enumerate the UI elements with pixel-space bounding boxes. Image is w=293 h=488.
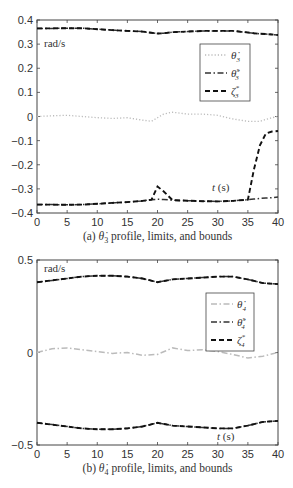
legend: θ̇3θ̇s3ζ*3: [200, 44, 250, 101]
y-tick-label: −0.1: [11, 135, 33, 147]
x-tick-label: 35: [242, 216, 254, 228]
figure-caption: (b) θ̇4 profile, limits, and bounds: [83, 462, 233, 477]
y-tick-label: 0.2: [18, 62, 33, 74]
y-tick-label: 0.5: [18, 254, 33, 266]
plot-frame: [37, 260, 278, 445]
x-tick-label: 0: [34, 448, 40, 460]
series-line: [37, 276, 278, 284]
x-tick-label: 20: [151, 216, 163, 228]
x-tick-label: 20: [151, 448, 163, 460]
y-tick-label: 0.3: [18, 38, 33, 50]
y-tick-label: −0.2: [11, 159, 33, 171]
series-line: [37, 112, 278, 121]
y-tick-label: −0.3: [11, 183, 33, 195]
y-axis-unit-label: rad/s: [44, 262, 65, 274]
x-tick-label: 40: [272, 216, 284, 228]
y-tick-label: 0: [27, 111, 33, 123]
x-tick-label: 0: [34, 216, 40, 228]
x-axis-label: t (s): [217, 430, 235, 443]
x-tick-label: 15: [121, 448, 133, 460]
x-tick-label: 35: [242, 448, 254, 460]
chart-panel-b: 05101520253035400.50−0.5rad/st (s)θ̇4θ̇s…: [11, 254, 284, 477]
legend: θ̇4θ̇s4ζ*4: [206, 293, 254, 351]
x-tick-label: 25: [182, 448, 194, 460]
x-tick-label: 25: [182, 216, 194, 228]
y-tick-label: −0.4: [11, 207, 33, 219]
y-tick-label: 0: [27, 347, 33, 359]
x-tick-label: 40: [272, 448, 284, 460]
x-tick-label: 10: [91, 448, 103, 460]
y-axis-unit-label: rad/s: [44, 37, 65, 49]
x-tick-label: 5: [64, 216, 70, 228]
x-axis-label: t (s): [212, 181, 230, 194]
figure-caption: (a) θ̇3 profile, limits, and bounds: [83, 230, 233, 245]
y-tick-label: 0.4: [18, 14, 33, 26]
x-tick-label: 15: [121, 216, 133, 228]
x-tick-label: 10: [91, 216, 103, 228]
chart-panel-a: 05101520253035400.40.30.20.10−0.1−0.2−0.…: [11, 14, 284, 245]
y-tick-label: −0.5: [11, 439, 33, 451]
y-tick-label: 0.1: [18, 86, 33, 98]
series-line: [37, 131, 278, 205]
x-tick-label: 30: [212, 448, 224, 460]
figure: 05101520253035400.40.30.20.10−0.1−0.2−0.…: [0, 0, 293, 488]
series-line: [37, 421, 278, 429]
x-tick-label: 5: [64, 448, 70, 460]
x-tick-label: 30: [212, 216, 224, 228]
